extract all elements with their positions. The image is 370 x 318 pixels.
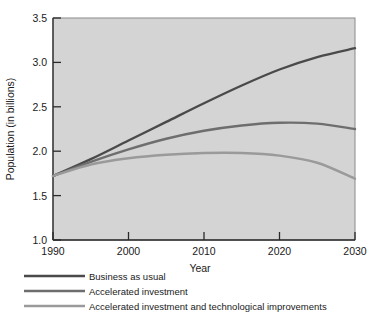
y-tick-label: 3.0 — [32, 56, 47, 68]
population-projection-chart: 1.01.52.02.53.03.5 19902000201020202030 … — [0, 0, 370, 318]
x-tick-label: 1990 — [41, 245, 65, 257]
y-tick-label: 2.0 — [32, 145, 47, 157]
x-tick-label: 2030 — [343, 245, 367, 257]
x-tick-label: 2000 — [117, 245, 141, 257]
y-axis-title: Population (in billions) — [4, 78, 16, 181]
legend-label-0: Business as usual — [89, 271, 166, 282]
x-tick-label: 2020 — [268, 245, 292, 257]
legend-label-2: Accelerated investment and technological… — [89, 301, 327, 312]
chart-svg: 1.01.52.02.53.03.5 19902000201020202030 … — [0, 0, 370, 318]
chart-legend: Business as usualAccelerated investmentA… — [24, 271, 327, 312]
x-axis-title: Year — [189, 262, 211, 274]
y-tick-label: 3.5 — [32, 12, 47, 24]
plot-area-background — [53, 18, 355, 240]
y-tick-label: 2.5 — [32, 101, 47, 113]
x-tick-label: 2010 — [192, 245, 216, 257]
legend-label-1: Accelerated investment — [89, 286, 188, 297]
y-tick-label: 1.5 — [32, 190, 47, 202]
